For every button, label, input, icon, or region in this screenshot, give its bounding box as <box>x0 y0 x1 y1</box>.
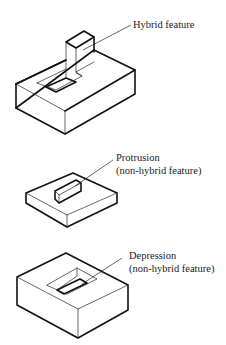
protrusion-label-line2: (non-hybrid feature) <box>116 165 202 177</box>
hybrid-leader-line <box>83 25 131 50</box>
depression-figure <box>17 253 128 338</box>
hybrid-feature-label: Hybrid feature <box>133 19 195 30</box>
protrusion-figure <box>26 173 117 227</box>
hybrid-feature-figure <box>16 31 135 134</box>
depression-label-line1: Depression <box>129 250 177 261</box>
depression-label-line2: (non-hybrid feature) <box>129 263 215 275</box>
protrusion-label-line1: Protrusion <box>116 152 161 163</box>
feature-diagram: Hybrid feature Protrusion (non-hybrid fe… <box>0 0 226 345</box>
depression-leader-line <box>82 258 122 284</box>
